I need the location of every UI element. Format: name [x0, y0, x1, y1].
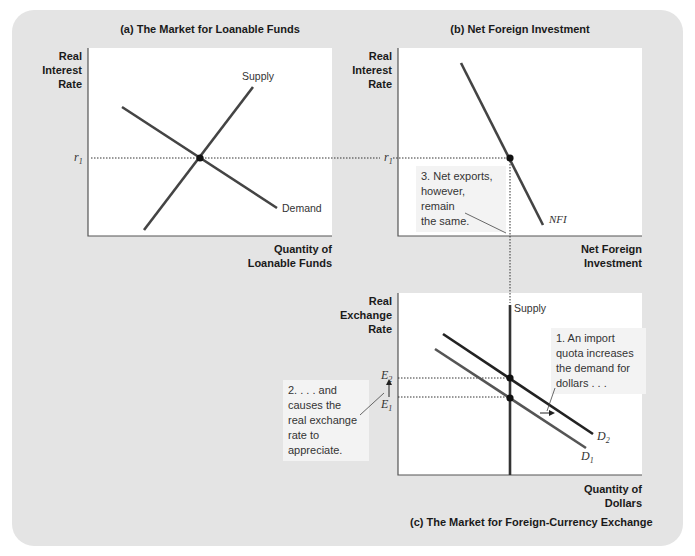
panel-c-e1-point	[506, 394, 513, 401]
panel-b-axes	[398, 48, 642, 236]
panel-b-note-pointer	[465, 213, 506, 233]
panel-b-point	[506, 154, 513, 161]
panel-c-e2-point	[506, 374, 513, 381]
panel-b-nfi-curve	[461, 63, 543, 225]
arrow-right-icon	[549, 410, 555, 416]
panel-a-equilibrium-point	[196, 154, 203, 161]
diagram-lines	[0, 0, 695, 556]
panel-c-d2-curve	[443, 334, 593, 434]
panel-c-note2-pointer	[360, 393, 384, 415]
arrow-up-icon	[386, 379, 392, 385]
